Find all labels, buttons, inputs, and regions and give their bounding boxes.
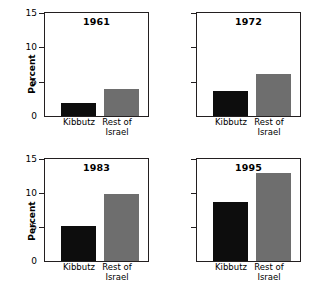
bar-kibbutz xyxy=(213,202,248,261)
x-axis-category-labels: Kibbutz Rest of Israel xyxy=(45,261,150,291)
bar-kibbutz xyxy=(61,226,96,261)
x-label-rest-line1: Rest of xyxy=(254,117,283,127)
bars-group-1995 xyxy=(197,159,300,261)
panel-1995: 1995 Kibbutz Rest of Israel xyxy=(157,147,315,294)
y-tick-label-0: 0 xyxy=(31,257,37,266)
y-tick-label-5: 5 xyxy=(31,222,37,231)
panel-1972: 1972 Kibbutz Rest of Israel xyxy=(157,0,315,147)
plot-area-1961: 1961 15 10 5 0 Kibbutz Rest of Israel xyxy=(44,12,149,117)
plot-area-1995: 1995 Kibbutz Rest of Israel xyxy=(196,158,301,262)
x-axis-category-labels: Kibbutz Rest of Israel xyxy=(197,261,302,291)
plot-area-1983: 1983 15 10 5 0 Kibbutz Rest of Israel xyxy=(44,158,149,262)
x-label-rest-line2: Israel xyxy=(105,127,128,137)
panel-1983: Percent 1983 15 10 5 0 Kibbutz Rest of I… xyxy=(0,147,157,294)
bar-rest-of-israel xyxy=(256,173,291,261)
x-axis-category-labels: Kibbutz Rest of Israel xyxy=(197,116,302,146)
x-label-rest-line2: Israel xyxy=(257,127,280,137)
bars-group-1961 xyxy=(45,13,148,116)
y-tick-label-0: 0 xyxy=(31,112,37,121)
bar-rest-of-israel xyxy=(256,74,291,116)
plot-area-1972: 1972 Kibbutz Rest of Israel xyxy=(196,12,301,117)
x-label-rest-line1: Rest of xyxy=(102,262,131,272)
y-tick-label-10: 10 xyxy=(26,43,37,52)
bars-group-1983 xyxy=(45,159,148,261)
x-axis-category-labels: Kibbutz Rest of Israel xyxy=(45,116,150,146)
bar-rest-of-israel xyxy=(104,89,139,116)
x-label-rest-of-israel: Rest of Israel xyxy=(91,118,143,138)
x-label-rest-line1: Rest of xyxy=(254,262,283,272)
bars-group-1972 xyxy=(197,13,300,116)
x-label-rest-of-israel: Rest of Israel xyxy=(91,263,143,283)
x-label-rest-line2: Israel xyxy=(105,272,128,282)
x-label-rest-of-israel: Rest of Israel xyxy=(243,118,295,138)
y-tick-label-10: 10 xyxy=(26,188,37,197)
x-label-rest-line1: Rest of xyxy=(102,117,131,127)
x-label-rest-line2: Israel xyxy=(257,272,280,282)
bar-rest-of-israel xyxy=(104,194,139,261)
panel-1961: Percent 1961 15 10 5 0 Kibbutz Rest of I… xyxy=(0,0,157,147)
y-tick-label-15: 15 xyxy=(26,155,37,164)
y-tick-label-5: 5 xyxy=(31,77,37,86)
x-label-rest-of-israel: Rest of Israel xyxy=(243,263,295,283)
bar-kibbutz xyxy=(61,103,96,116)
multi-panel-bar-chart-figure: Percent 1961 15 10 5 0 Kibbutz Rest of I… xyxy=(0,0,315,294)
y-tick-label-15: 15 xyxy=(26,9,37,18)
bar-kibbutz xyxy=(213,91,248,116)
